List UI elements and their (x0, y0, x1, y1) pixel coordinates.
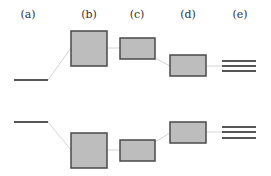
connector-a-b-upper (48, 48, 71, 80)
box-b-lower (71, 133, 107, 168)
connector-c-d-upper (155, 58, 170, 66)
energy-level-diagram: (a) (b) (c) (d) (e) (0, 0, 271, 176)
box-d-lower (170, 122, 206, 143)
connector-a-b-lower (48, 122, 71, 150)
box-d-upper (170, 55, 206, 76)
upper-row (14, 31, 256, 80)
label-d: (d) (180, 8, 196, 21)
label-c: (c) (130, 8, 145, 21)
label-a: (a) (20, 8, 35, 21)
box-c-upper (120, 38, 155, 59)
box-c-lower (120, 140, 155, 161)
label-b: (b) (81, 8, 97, 21)
connector-c-d-lower (155, 133, 170, 142)
lower-row (14, 122, 256, 168)
label-e: (e) (232, 8, 247, 21)
box-b-upper (71, 31, 107, 66)
